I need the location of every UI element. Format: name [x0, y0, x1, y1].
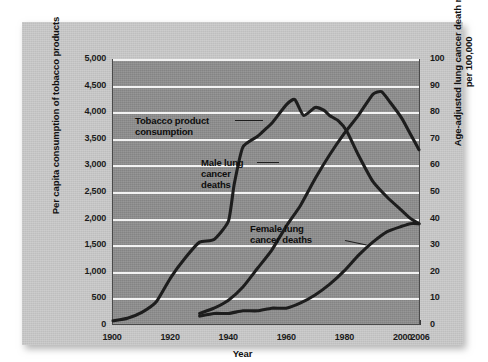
y-axis-tick-label: 4,500	[58, 80, 106, 90]
y-axis-tick-label: 4,000	[58, 106, 106, 116]
y-axis-tick-label: 500	[58, 292, 106, 302]
series-curves	[113, 60, 419, 324]
leader-line-male	[257, 162, 279, 163]
x-axis-tick-mark	[420, 320, 421, 325]
y2-axis-tick-label: 30	[430, 239, 464, 249]
leader-line-tobacco	[235, 120, 263, 121]
y2-axis-tick-label: 60	[430, 159, 464, 169]
x-axis-tick-label: 1940	[206, 332, 250, 342]
x-axis-tick-label: 2006	[398, 332, 442, 342]
y-axis-title: Per capita consumption of tobacco produc…	[50, 0, 61, 241]
figure-canvas: Per capita consumption of tobacco produc…	[0, 0, 488, 362]
y2-axis-tick-label: 40	[430, 213, 464, 223]
plot-area: Tobacco product consumption Male lung ca…	[112, 59, 420, 325]
annotation-tobacco-product-consumption: Tobacco product consumption	[135, 115, 209, 137]
y-axis-tick-label: 2,000	[58, 213, 106, 223]
y-axis-tick-label: 3,000	[58, 159, 106, 169]
y-axis-tick-label: 2,500	[58, 186, 106, 196]
y2-axis-tick-label: 10	[430, 292, 464, 302]
y2-axis-tick-label: 70	[430, 133, 464, 143]
y-axis-tick-label: 3,500	[58, 133, 106, 143]
y-axis-tick-label: 5,000	[58, 53, 106, 63]
y2-axis-title: Age-adjusted lung cancer death rates, pe…	[452, 0, 474, 152]
annotation-female-lung-cancer-deaths: Female lung cancer deaths	[250, 223, 312, 245]
x-axis-tick-label: 1960	[264, 332, 308, 342]
y2-axis-tick-label: 100	[430, 53, 464, 63]
y-axis-tick-label: 1,500	[58, 239, 106, 249]
y-axis-tick-label: 0	[58, 319, 106, 329]
x-axis-title: Year	[22, 348, 463, 359]
y-axis-tick-label: 1,000	[58, 266, 106, 276]
x-axis-tick-label: 1900	[90, 332, 134, 342]
chart-card: Per capita consumption of tobacco produc…	[22, 22, 463, 345]
y2-axis-tick-label: 90	[430, 80, 464, 90]
y2-axis-tick-label: 80	[430, 106, 464, 116]
x-axis-tick-label: 1920	[148, 332, 192, 342]
annotation-male-lung-cancer-deaths: Male lung cancer deaths	[201, 157, 243, 190]
y2-axis-tick-label: 50	[430, 186, 464, 196]
y2-axis-tick-label: 0	[430, 319, 464, 329]
x-axis-tick-label: 1980	[322, 332, 366, 342]
y2-axis-tick-label: 20	[430, 266, 464, 276]
